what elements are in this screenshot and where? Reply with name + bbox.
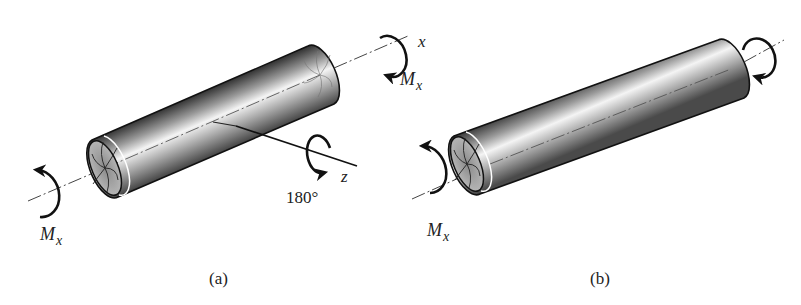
svg-text:M: M <box>39 224 56 244</box>
svg-text:M: M <box>426 220 443 240</box>
b-shaft-body <box>449 39 750 195</box>
right-moment-label: M x <box>399 69 423 93</box>
left-moment-arrow <box>38 170 59 217</box>
torsion-diagram: z 180° x M x M x (a) M <box>0 0 801 305</box>
b-left-moment-label: M x <box>426 220 450 244</box>
svg-text:M: M <box>399 69 416 89</box>
figure-b: M x (b) <box>412 38 784 288</box>
svg-text:x: x <box>55 233 63 248</box>
x-axis-label: x <box>417 32 426 51</box>
left-moment-label: M x <box>39 224 63 248</box>
z-axis-line <box>236 126 357 166</box>
caption-a: (a) <box>209 269 228 288</box>
caption-b: (b) <box>590 269 610 288</box>
rotation-180-arrow <box>307 136 330 174</box>
figure-a: z 180° x M x M x (a) <box>28 32 426 288</box>
z-axis-label: z <box>340 167 348 186</box>
b-left-moment-arrow <box>424 146 446 193</box>
b-centerline-right <box>744 40 784 62</box>
rotation-angle-label: 180° <box>286 188 318 207</box>
svg-text:x: x <box>442 229 450 244</box>
svg-text:x: x <box>415 78 423 93</box>
